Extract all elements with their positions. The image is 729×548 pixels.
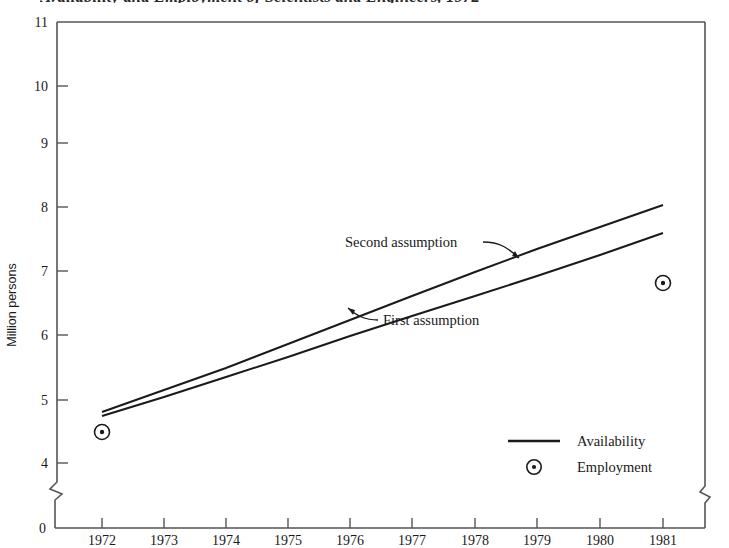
- y-tick-label-7: 7: [41, 264, 48, 279]
- plot-frame: [50, 22, 710, 528]
- y-tick-label-5: 5: [41, 393, 48, 408]
- x-tick-label-1974: 1974: [212, 533, 240, 548]
- x-axis-ticks: [102, 518, 663, 528]
- annotation-first-assumption: First assumption: [348, 308, 480, 328]
- y-axis-with-break: [50, 22, 62, 528]
- employment-point-1981: [656, 276, 671, 291]
- y-tick-label-11: 11: [35, 15, 48, 30]
- y-axis-title: Million persons: [5, 263, 19, 346]
- legend-circled-dot-icon: [527, 460, 541, 474]
- x-tick-label-1981: 1981: [649, 533, 677, 548]
- y-axis-ticks: [57, 86, 68, 463]
- x-tick-label-1973: 1973: [150, 533, 178, 548]
- annotation-first-assumption-label: First assumption: [383, 312, 480, 328]
- legend-label-employment: Employment: [577, 459, 652, 475]
- x-tick-label-1976: 1976: [336, 533, 364, 548]
- x-tick-label-1972: 1972: [88, 533, 116, 548]
- series-employment-markers: [95, 276, 671, 440]
- annotation-arrowhead-first: [348, 308, 355, 315]
- annotation-second-assumption: Second assumption: [345, 234, 519, 258]
- frame-right-edge-with-break: [700, 22, 710, 528]
- x-tick-label-1977: 1977: [398, 533, 426, 548]
- availability-employment-line-chart: 11 10 9 8 7 6 5 4 0 Million persons: [0, 0, 729, 548]
- legend-label-availability: Availability: [577, 433, 646, 449]
- figure-root: Availability and Employment of Scientist…: [0, 0, 729, 548]
- chart-legend: Availability Employment: [508, 433, 652, 475]
- y-tick-label-10: 10: [34, 79, 48, 94]
- legend-item-employment: Employment: [527, 459, 652, 475]
- x-tick-label-1979: 1979: [523, 533, 551, 548]
- y-tick-label-4: 4: [41, 456, 48, 471]
- y-axis-tick-labels: 11 10 9 8 7 6 5 4 0: [34, 15, 48, 536]
- legend-item-availability: Availability: [508, 433, 646, 449]
- y-tick-label-0: 0: [39, 521, 46, 536]
- y-tick-label-6: 6: [41, 328, 48, 343]
- y-tick-label-9: 9: [41, 136, 48, 151]
- employment-point-1972: [95, 425, 110, 440]
- x-tick-label-1975: 1975: [274, 533, 302, 548]
- x-tick-label-1980: 1980: [586, 533, 614, 548]
- x-tick-label-1978: 1978: [461, 533, 489, 548]
- y-tick-label-8: 8: [41, 200, 48, 215]
- annotation-second-assumption-label: Second assumption: [345, 234, 458, 250]
- x-axis-tick-labels: 1972 1973 1974 1975 1976 1977 1978 1979 …: [88, 533, 677, 548]
